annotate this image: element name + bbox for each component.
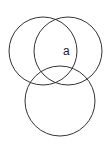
region-label-a: a [63, 44, 70, 58]
venn-diagram: a [0, 0, 107, 144]
circle-bottom [25, 66, 95, 136]
